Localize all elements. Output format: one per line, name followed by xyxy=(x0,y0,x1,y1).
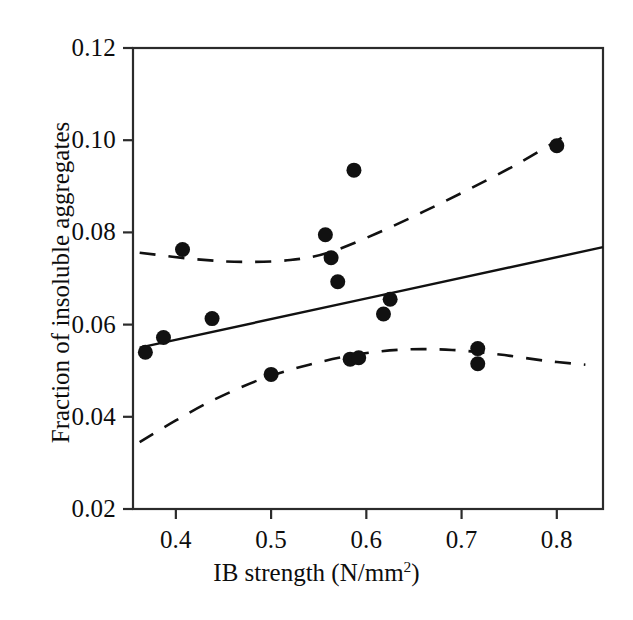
data-point-3 xyxy=(205,311,220,326)
data-point-15 xyxy=(549,138,564,153)
data-point-14 xyxy=(470,356,485,371)
data-point-10 xyxy=(351,350,366,365)
x-tick-label-2: 0.6 xyxy=(326,527,406,552)
x-tick-label-4: 0.8 xyxy=(517,527,597,552)
x-axis-title-base: IB strength (N/mm xyxy=(213,559,403,586)
data-point-0 xyxy=(138,345,153,360)
data-point-13 xyxy=(470,341,485,356)
scatter-plot-figure: 0.020.040.060.080.100.12 0.40.50.60.70.8… xyxy=(0,0,633,620)
data-point-8 xyxy=(346,163,361,178)
plot-frame xyxy=(133,48,603,509)
x-axis-title-tail: ) xyxy=(411,559,419,586)
x-tick-label-1: 0.5 xyxy=(231,527,311,552)
data-point-5 xyxy=(318,227,333,242)
data-point-11 xyxy=(376,306,391,321)
x-tick-label-0: 0.4 xyxy=(136,527,216,552)
y-axis-title: Fraction of insoluble aggregates xyxy=(48,43,73,523)
data-point-12 xyxy=(383,292,398,307)
data-point-7 xyxy=(330,274,345,289)
data-point-6 xyxy=(324,250,339,265)
x-axis-title: IB strength (N/mm2) xyxy=(0,560,633,585)
plot-frame-rect xyxy=(133,48,603,509)
data-point-4 xyxy=(264,367,279,382)
data-point-1 xyxy=(156,330,171,345)
data-point-2 xyxy=(175,242,190,257)
x-tick-label-3: 0.7 xyxy=(422,527,502,552)
